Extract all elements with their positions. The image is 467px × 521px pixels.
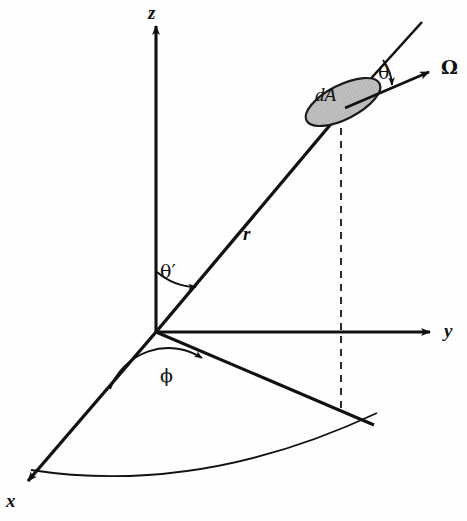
spherical-coordinate-diagram: z y x r Ω dA θ θ′ ϕ xyxy=(0,0,467,521)
r-vector-label: r xyxy=(243,224,250,243)
r-vector-line xyxy=(156,112,341,332)
diagram-canvas xyxy=(0,0,467,521)
x-axis-label: x xyxy=(6,491,16,510)
omega-vector-label: Ω xyxy=(441,58,458,77)
theta-angle-label: θ xyxy=(378,63,389,82)
y-axis-label: y xyxy=(444,321,452,340)
x-axis-line xyxy=(28,332,156,481)
z-axis-label: z xyxy=(148,3,155,22)
differential-area-label: dA xyxy=(315,85,336,104)
theta-prime-angle-label: θ′ xyxy=(160,262,176,281)
phi-angle-label: ϕ xyxy=(160,366,173,385)
differential-area-ellipse xyxy=(299,68,387,136)
azimuth-sweep-arc xyxy=(31,413,377,476)
